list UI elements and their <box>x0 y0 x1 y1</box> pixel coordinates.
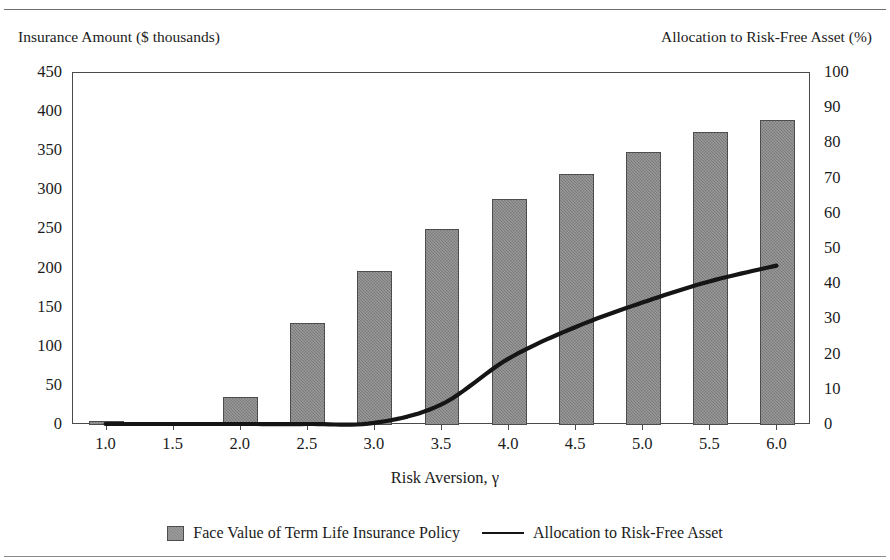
bar <box>89 421 124 425</box>
y-axis-right-tick-label: 70 <box>824 170 841 187</box>
bar <box>223 397 258 425</box>
y-axis-right-tick-label: 10 <box>824 381 841 398</box>
right-axis-caption: Allocation to Risk-Free Asset (%) <box>661 28 872 46</box>
bar <box>760 120 795 425</box>
x-axis-tick-label: 4.0 <box>498 434 519 454</box>
y-axis-right-tick-label: 100 <box>824 64 849 81</box>
y-axis-right-tick-label: 30 <box>824 310 841 327</box>
top-divider-rule <box>4 9 886 10</box>
x-axis-tick-label: 1.5 <box>162 434 183 454</box>
y-axis-left-tick-label: 0 <box>54 416 62 433</box>
bar <box>559 174 594 425</box>
x-axis-tick-label: 6.0 <box>766 434 787 454</box>
x-axis-tick-label: 5.5 <box>699 434 720 454</box>
x-axis-tick-label: 4.5 <box>565 434 586 454</box>
bar <box>626 152 661 425</box>
x-axis-tick-label: 5.0 <box>632 434 653 454</box>
y-axis-left-tick-label: 450 <box>37 64 62 81</box>
x-axis-tick-label: 2.5 <box>297 434 318 454</box>
y-axis-right-tick-label: 50 <box>824 240 841 257</box>
y-axis-left-tick-label: 400 <box>37 103 62 120</box>
bar <box>156 422 191 425</box>
y-axis-left-tick-label: 150 <box>37 299 62 316</box>
cropped-figure-title: Insurance and Portfolio Allocation <box>0 0 890 7</box>
plot-area <box>72 72 810 424</box>
x-axis-tick-label: 3.0 <box>364 434 385 454</box>
y-axis-right-tick-label: 60 <box>824 205 841 222</box>
bottom-divider-rule <box>4 556 886 557</box>
y-axis-left-tick-label: 300 <box>37 181 62 198</box>
y-axis-right-tick-label: 80 <box>824 134 841 151</box>
y-axis-left-tick-label: 350 <box>37 142 62 159</box>
legend-entry-face-value: Face Value of Term Life Insurance Policy <box>167 524 460 542</box>
bar <box>290 323 325 425</box>
legend-entry-risk-free-allocation: Allocation to Risk-Free Asset <box>482 524 723 542</box>
y-axis-right-tick-label: 40 <box>824 275 841 292</box>
y-axis-right-tick-label: 0 <box>824 416 832 433</box>
y-axis-right-tick-label: 20 <box>824 346 841 363</box>
bar <box>357 271 392 425</box>
figure-title-text: Insurance and Portfolio Allocation <box>215 0 443 3</box>
x-axis-tick-label: 1.0 <box>95 434 116 454</box>
x-axis-title: Risk Aversion, γ <box>0 468 890 488</box>
y-axis-right-tick-label: 90 <box>824 99 841 116</box>
x-axis-tick-label: 3.5 <box>431 434 452 454</box>
bar <box>693 132 728 425</box>
bar <box>425 229 460 425</box>
legend-label-face-value: Face Value of Term Life Insurance Policy <box>193 524 460 542</box>
legend-label-risk-free-allocation: Allocation to Risk-Free Asset <box>533 524 723 542</box>
chart-legend: Face Value of Term Life Insurance Policy… <box>0 524 890 542</box>
y-axis-left-tick-label: 50 <box>46 377 63 394</box>
y-axis-left-tick-label: 250 <box>37 220 62 237</box>
y-axis-left-tick-label: 200 <box>37 260 62 277</box>
left-axis-caption: Insurance Amount ($ thousands) <box>18 28 220 46</box>
y-axis-left-tick-label: 100 <box>37 338 62 355</box>
x-axis-tick-label: 2.0 <box>229 434 250 454</box>
legend-bar-swatch-icon <box>167 526 184 541</box>
bar <box>492 199 527 425</box>
legend-line-swatch-icon <box>482 532 524 534</box>
